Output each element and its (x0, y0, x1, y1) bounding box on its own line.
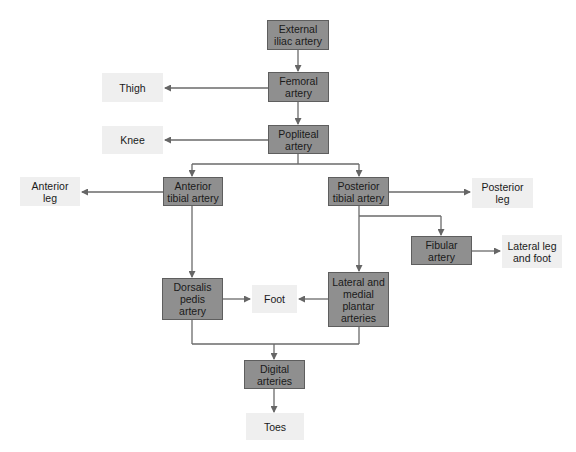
region-knee: Knee (102, 126, 163, 154)
region-anterior-leg: Anterior leg (20, 177, 80, 206)
node-anterior-tibial-artery: Anterior tibial artery (163, 177, 223, 206)
node-external-iliac-artery: External iliac artery (267, 20, 329, 50)
node-fibular-artery: Fibular artery (411, 236, 472, 265)
node-femoral-artery: Femoral artery (268, 72, 329, 102)
node-digital-arteries: Digital arteries (244, 360, 305, 389)
region-foot: Foot (252, 285, 297, 313)
node-dorsalis-pedis-artery: Dorsalis pedis artery (162, 278, 223, 320)
node-popliteal-artery: Popliteal artery (268, 125, 329, 154)
region-posterior-leg: Posterior leg (472, 178, 533, 208)
node-plantar-arteries: Lateral and medial plantar arteries (328, 272, 389, 327)
region-lateral-leg-and-foot: Lateral leg and foot (502, 235, 562, 268)
node-posterior-tibial-artery: Posterior tibial artery (328, 177, 389, 206)
region-toes: Toes (246, 413, 304, 440)
region-thigh: Thigh (102, 73, 163, 102)
